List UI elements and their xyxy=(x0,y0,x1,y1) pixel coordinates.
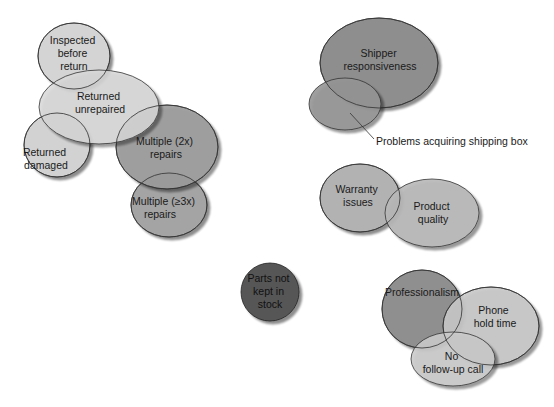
callout-shipping-box: Problems acquiring shipping box xyxy=(376,135,529,147)
cluster-parts: Parts not kept in stock xyxy=(241,263,299,321)
cluster-returns-repairs: Inspected before return Returned unrepai… xyxy=(23,23,218,237)
cluster-product: Warranty issues Product quality xyxy=(320,164,479,247)
label-returned-unrepaired: Returned unrepaired xyxy=(75,90,125,115)
label-phone-hold-time: Phone hold time xyxy=(474,304,517,329)
cluster-service: Professionalism Phone hold time No follo… xyxy=(382,270,539,386)
cluster-shipping: Shipper responsiveness Problems acquirin… xyxy=(309,18,529,147)
affinity-diagram: Inspected before return Returned unrepai… xyxy=(0,0,554,407)
label-returned-damaged: Returned damaged xyxy=(23,146,69,171)
bubble-shipping-box xyxy=(309,78,381,130)
label-product-quality: Product quality xyxy=(413,200,452,225)
label-professionalism: Professionalism xyxy=(385,286,459,298)
